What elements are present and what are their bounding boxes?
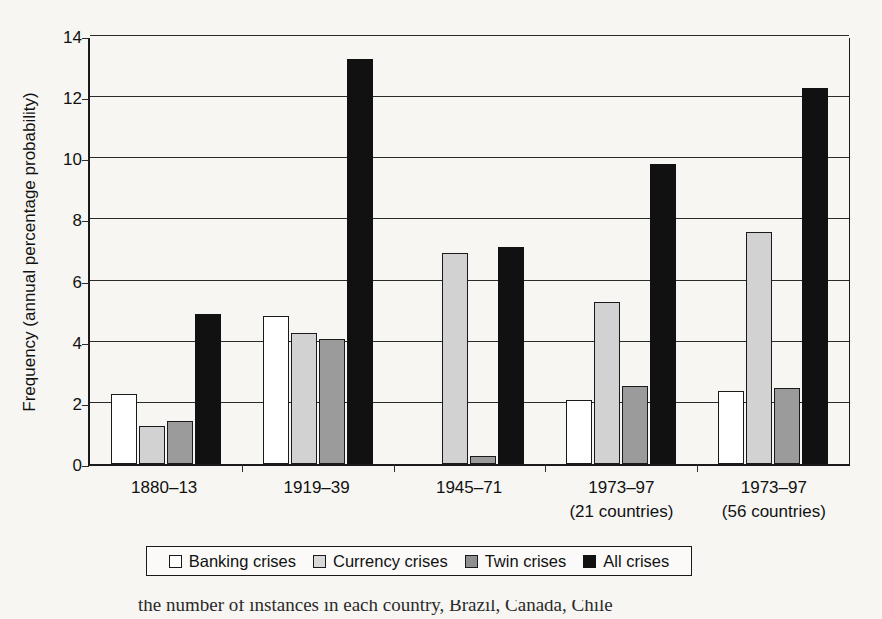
- bar: [195, 314, 221, 464]
- x-axis-tick-mark: [545, 464, 546, 472]
- y-axis-tick-label: 0: [0, 456, 82, 476]
- y-axis-tick-mark: [82, 38, 89, 39]
- medium-gray-square-icon: [465, 555, 478, 568]
- legend-item-label: Banking crises: [189, 552, 296, 571]
- legend-item[interactable]: All crises: [583, 552, 669, 571]
- bar: [167, 421, 193, 464]
- legend-item-label: Twin crises: [485, 552, 567, 571]
- x-axis-label-line1: 1880–13: [131, 478, 197, 497]
- bar-group: [394, 38, 546, 464]
- light-gray-square-icon: [313, 555, 326, 568]
- x-axis-group-label: 1919–39: [240, 476, 392, 532]
- y-axis-tick-mark: [82, 405, 89, 406]
- bar: [470, 456, 496, 464]
- legend-item-label: All crises: [603, 552, 669, 571]
- x-axis-label-line2: (56 countries): [698, 500, 850, 524]
- x-axis-group-label: 1973–97(56 countries): [698, 476, 850, 532]
- x-axis-label-line1: 1919–39: [284, 478, 350, 497]
- black-square-icon: [583, 555, 596, 568]
- bar: [566, 400, 592, 464]
- x-axis-tick-mark: [394, 464, 395, 472]
- x-axis-tick-mark: [697, 464, 698, 472]
- legend-item-label: Currency crises: [333, 552, 448, 571]
- x-axis-label-line1: 1945–71: [436, 478, 502, 497]
- y-axis-tick-label: 14: [0, 28, 82, 48]
- bar: [319, 339, 345, 464]
- bar: [498, 247, 524, 464]
- bar: [594, 302, 620, 464]
- chart-legend: Banking crisesCurrency crisesTwin crises…: [146, 546, 692, 576]
- y-axis-tick-mark: [82, 99, 89, 100]
- x-axis-group-label: 1880–13: [88, 476, 240, 532]
- x-axis-tick-mark: [242, 464, 243, 472]
- plot-area: [88, 38, 850, 466]
- bar-group: [545, 38, 697, 464]
- y-axis-tick-label: 6: [0, 273, 82, 293]
- bar: [746, 232, 772, 464]
- x-axis-label-line1: 1973–97: [588, 478, 654, 497]
- bar: [263, 316, 289, 464]
- y-axis-tick-label: 8: [0, 211, 82, 231]
- bar-groups: [90, 38, 849, 464]
- bar: [139, 426, 165, 464]
- y-axis-tick-label: 10: [0, 150, 82, 170]
- y-axis-tick-mark: [82, 221, 89, 222]
- page-caption-strip: the number of instances in each country,…: [0, 600, 882, 619]
- y-axis-tick-mark: [82, 344, 89, 345]
- bar: [442, 253, 468, 464]
- legend-item[interactable]: Twin crises: [465, 552, 567, 571]
- y-axis-tick-mark: [82, 466, 89, 467]
- y-axis-tick-mark: [82, 160, 89, 161]
- y-axis-tick-label: 12: [0, 89, 82, 109]
- y-axis-tick-mark: [82, 283, 89, 284]
- x-axis-group-label: 1945–71: [393, 476, 545, 532]
- legend-item[interactable]: Banking crises: [169, 552, 296, 571]
- bar-group: [697, 38, 849, 464]
- bar: [111, 394, 137, 464]
- legend-item[interactable]: Currency crises: [313, 552, 448, 571]
- bar-group: [242, 38, 394, 464]
- bar: [650, 164, 676, 464]
- bar: [622, 386, 648, 464]
- x-axis-labels: 1880–131919–391945–711973–97(21 countrie…: [88, 476, 850, 532]
- bar: [774, 388, 800, 464]
- bar-chart: Frequency (annual percentage probability…: [0, 0, 882, 619]
- y-axis-tick-label: 4: [0, 334, 82, 354]
- gridline: [90, 35, 849, 36]
- x-axis-label-line2: (21 countries): [545, 500, 697, 524]
- bar: [347, 59, 373, 464]
- bar: [291, 333, 317, 464]
- y-axis-tick-label: 2: [0, 395, 82, 415]
- white-square-icon: [169, 555, 182, 568]
- bar: [802, 88, 828, 464]
- x-axis-label-line1: 1973–97: [741, 478, 807, 497]
- page-caption-text: the number of instances in each country,…: [138, 600, 613, 616]
- bar: [718, 391, 744, 464]
- x-axis-group-label: 1973–97(21 countries): [545, 476, 697, 532]
- bar-group: [90, 38, 242, 464]
